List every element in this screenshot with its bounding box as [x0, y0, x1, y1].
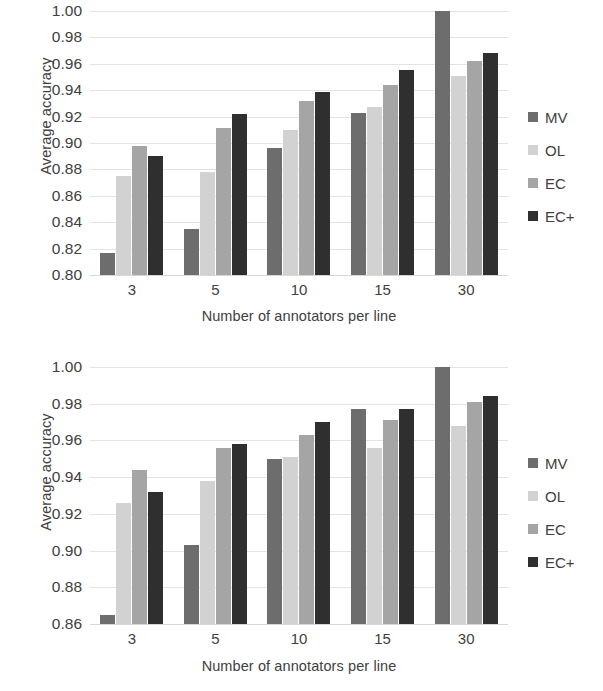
bar-group-10	[267, 11, 330, 275]
bar-group-15	[351, 11, 414, 275]
bar-EC+-5[interactable]	[232, 114, 247, 275]
y-tick-label: 1.00	[52, 3, 82, 19]
bar-MV-30[interactable]	[435, 11, 450, 275]
bar-EC+-10[interactable]	[315, 92, 330, 275]
bar-EC-30[interactable]	[467, 402, 482, 624]
legend-item-EC+[interactable]: EC+	[528, 549, 575, 575]
chart-panel-bottom: Average accuracy 1.000.980.960.940.920.9…	[0, 346, 603, 691]
x-tick-label: 3	[95, 630, 169, 647]
bar-MV-5[interactable]	[184, 545, 199, 624]
bar-EC+-3[interactable]	[148, 156, 163, 275]
x-tick-label: 10	[262, 630, 336, 647]
bar-group-3	[100, 367, 163, 624]
legend-swatch-icon	[528, 178, 538, 188]
bar-OL-3[interactable]	[116, 503, 131, 624]
bar-EC-15[interactable]	[383, 420, 398, 624]
bar-OL-15[interactable]	[367, 107, 382, 275]
x-axis-ticks-bottom: 35101530	[90, 630, 508, 647]
y-tick-label: 0.88	[52, 162, 82, 178]
figure-two-bar-charts: Average accuracy 1.000.980.960.940.920.9…	[0, 0, 603, 691]
y-tick-label: 0.92	[52, 506, 82, 522]
y-tick-label: 0.90	[52, 135, 82, 151]
y-tick-label: 1.00	[52, 359, 82, 375]
legend-item-EC[interactable]: EC	[528, 170, 575, 196]
bar-OL-30[interactable]	[451, 426, 466, 624]
bar-EC-15[interactable]	[383, 85, 398, 275]
legend-swatch-icon	[528, 524, 538, 534]
legend-item-OL[interactable]: OL	[528, 137, 575, 163]
bar-OL-5[interactable]	[200, 172, 215, 275]
y-tick-label: 0.80	[52, 267, 82, 283]
bar-group-15	[351, 367, 414, 624]
bar-EC+-10[interactable]	[315, 422, 330, 624]
bar-OL-3[interactable]	[116, 176, 131, 275]
bar-OL-30[interactable]	[451, 76, 466, 275]
legend-swatch-icon	[528, 145, 538, 155]
bar-EC+-30[interactable]	[483, 396, 498, 624]
bar-MV-5[interactable]	[184, 229, 199, 275]
legend-swatch-icon	[528, 458, 538, 468]
bar-group-10	[267, 367, 330, 624]
bar-group-30	[435, 11, 498, 275]
legend-label: OL	[545, 489, 565, 504]
y-tick-label: 0.98	[52, 30, 82, 46]
bar-EC-5[interactable]	[216, 128, 231, 275]
x-axis-title-bottom: Number of annotators per line	[90, 658, 508, 674]
y-tick-label: 0.96	[52, 433, 82, 449]
bar-MV-10[interactable]	[267, 459, 282, 624]
y-tick-label: 0.88	[52, 580, 82, 596]
bar-EC-10[interactable]	[299, 435, 314, 624]
bar-EC-3[interactable]	[132, 470, 147, 624]
y-tick-label: 0.90	[52, 543, 82, 559]
bar-OL-10[interactable]	[283, 130, 298, 275]
bar-OL-15[interactable]	[367, 448, 382, 624]
legend-item-MV[interactable]: MV	[528, 104, 575, 130]
legend-swatch-icon	[528, 557, 538, 567]
bar-EC+-15[interactable]	[399, 70, 414, 275]
plot-area-bottom	[90, 367, 508, 624]
bar-MV-3[interactable]	[100, 253, 115, 275]
bar-EC-30[interactable]	[467, 61, 482, 275]
bar-group-30	[435, 367, 498, 624]
bar-EC+-3[interactable]	[148, 492, 163, 624]
bar-OL-10[interactable]	[283, 457, 298, 624]
bar-EC-10[interactable]	[299, 101, 314, 275]
x-tick-label: 30	[429, 630, 503, 647]
legend-item-EC+[interactable]: EC+	[528, 203, 575, 229]
bar-group-5	[184, 367, 247, 624]
bar-EC-5[interactable]	[216, 448, 231, 624]
bar-MV-15[interactable]	[351, 113, 366, 275]
bar-EC+-5[interactable]	[232, 444, 247, 624]
legend-label: EC	[545, 176, 566, 191]
x-tick-label: 5	[178, 281, 252, 298]
x-tick-label: 3	[95, 281, 169, 298]
legend-item-OL[interactable]: OL	[528, 483, 575, 509]
y-tick-label: 0.84	[52, 214, 82, 230]
x-tick-label: 10	[262, 281, 336, 298]
legend-label: MV	[545, 456, 568, 471]
y-tick-label: 0.94	[52, 82, 82, 98]
bar-OL-5[interactable]	[200, 481, 215, 624]
y-tick-label: 0.96	[52, 56, 82, 72]
bar-groups-top	[90, 11, 508, 275]
plot-area-top	[90, 11, 508, 275]
y-tick-label: 0.82	[52, 241, 82, 257]
x-axis-title-top: Number of annotators per line	[90, 308, 508, 324]
x-tick-label: 15	[346, 630, 420, 647]
legend-item-MV[interactable]: MV	[528, 450, 575, 476]
x-tick-label: 5	[178, 630, 252, 647]
bar-group-5	[184, 11, 247, 275]
legend-item-EC[interactable]: EC	[528, 516, 575, 542]
bar-EC+-15[interactable]	[399, 409, 414, 624]
bar-MV-3[interactable]	[100, 615, 115, 624]
legend-top: MVOLECEC+	[528, 104, 575, 236]
legend-label: EC+	[545, 209, 575, 224]
bar-MV-15[interactable]	[351, 409, 366, 624]
y-tick-label: 0.98	[52, 396, 82, 412]
bar-MV-30[interactable]	[435, 367, 450, 624]
bar-EC-3[interactable]	[132, 146, 147, 275]
y-tick-label: 0.86	[52, 188, 82, 204]
bar-MV-10[interactable]	[267, 148, 282, 275]
bar-EC+-30[interactable]	[483, 53, 498, 275]
x-axis-ticks-top: 35101530	[90, 281, 508, 298]
